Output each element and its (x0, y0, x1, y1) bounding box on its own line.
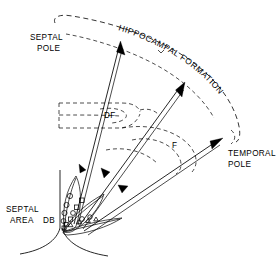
label-db: DB (43, 216, 55, 225)
df-band-lower-outline (59, 114, 140, 128)
label-hippocampal-formation: HIPPOCAMPAL FORMATION (117, 22, 225, 96)
arrow-shaft-inner (88, 145, 220, 235)
arrow-mid-chevron (118, 185, 128, 193)
hippocampal-formation-figure: SEPTAL POLE HIPPOCAMPAL FORMATION DF F T… (0, 0, 280, 265)
arrow-shaft-inner (83, 90, 184, 229)
arrow-shaft-outer (84, 141, 217, 231)
diagram-canvas: SEPTAL POLE HIPPOCAMPAL FORMATION DF F T… (0, 0, 280, 265)
label-temporal-pole-line1: TEMPORAL (228, 149, 276, 158)
label-septal-area-line2: AREA (10, 216, 34, 225)
arrow-mid-chevron (79, 164, 86, 173)
arrow-tip (176, 82, 186, 97)
f-arc-outer (122, 127, 196, 172)
cell-marker-triangle (94, 217, 99, 221)
projection-arrow-middle (79, 82, 185, 229)
df-band-outline (59, 103, 140, 112)
arrow-shaft-outer (74, 47, 119, 224)
df-band-right-tail (140, 109, 158, 114)
arrow-shaft-outer (79, 87, 180, 226)
label-septal-area-line1: SEPTAL (6, 205, 39, 214)
label-septal-pole-line2: POLE (37, 44, 60, 53)
label-septal-pole-line1: SEPTAL (30, 33, 63, 42)
label-df: DF (104, 111, 116, 120)
arrow-mid-chevron (101, 168, 110, 178)
arrow-shaft-inner (78, 48, 123, 225)
septal-base-left-curve (20, 228, 60, 254)
hippocampal-formation-inner-arc (66, 34, 214, 118)
cell-marker-circle (71, 211, 76, 216)
outer-arc-temporal-hook (231, 130, 235, 144)
label-f: F (172, 141, 177, 150)
label-temporal-pole-line2: POLE (228, 160, 251, 169)
